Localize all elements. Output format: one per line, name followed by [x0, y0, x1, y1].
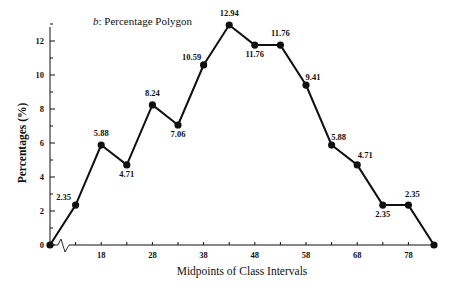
data-point-marker	[174, 121, 181, 128]
y-tick-label: 6	[40, 138, 44, 148]
data-point-label: 2.35	[405, 189, 420, 199]
data-point-marker	[251, 41, 258, 48]
axes: 02468101218283848586878	[36, 24, 435, 260]
data-point-marker	[328, 141, 335, 148]
x-tick-label: 78	[404, 250, 413, 260]
x-tick-label: 38	[199, 250, 208, 260]
data-point-label: 10.59	[182, 52, 201, 62]
data-point-marker	[72, 201, 79, 208]
data-point-label: 4.71	[358, 150, 373, 160]
chart-title: b: Percentage Polygon	[93, 15, 192, 27]
data-point-label: 8.24	[145, 88, 161, 98]
y-tick-label: 2	[40, 206, 44, 216]
data-point-marker	[98, 141, 105, 148]
data-point-marker	[277, 41, 284, 48]
y-tick-label: 12	[36, 36, 45, 46]
x-tick-label: 18	[97, 250, 106, 260]
data-point-marker	[405, 201, 412, 208]
data-point-marker	[354, 161, 361, 168]
data-point-label: 4.71	[119, 169, 134, 179]
data-point-label: 7.06	[171, 129, 186, 139]
data-point-marker	[226, 21, 233, 28]
data-point-label: 2.35	[375, 209, 390, 219]
x-tick-label: 68	[353, 250, 362, 260]
x-axis-title: Midpoints of Class Intervals	[177, 265, 308, 278]
y-tick-label: 10	[36, 70, 45, 80]
y-tick-label: 0	[40, 240, 44, 250]
data-point-label: 12.94	[220, 8, 240, 18]
data-point-label: 11.76	[245, 49, 264, 59]
y-tick-label: 4	[40, 172, 45, 182]
data-point-label: 5.88	[331, 132, 346, 142]
data-point-label: 2.35	[56, 192, 71, 202]
data-point-label: 11.76	[271, 28, 290, 38]
data-point-marker	[379, 201, 386, 208]
data-point-marker	[302, 81, 309, 88]
data-point-marker	[149, 101, 156, 108]
data-point-marker	[200, 61, 207, 68]
x-tick-label: 48	[251, 250, 260, 260]
data-point-marker	[46, 241, 53, 248]
chart-title-text: : Percentage Polygon	[99, 15, 193, 27]
x-tick-label: 28	[148, 250, 157, 260]
y-tick-label: 8	[40, 104, 44, 114]
data-point-marker	[123, 161, 130, 168]
chart-canvas: 02468101218283848586878 2.355.884.718.24…	[0, 0, 457, 288]
y-axis-title: Percentages (%)	[16, 103, 29, 184]
data-point-label: 5.88	[94, 128, 109, 138]
data-point-marker	[430, 241, 437, 248]
percentage-polygon-chart: 02468101218283848586878 2.355.884.718.24…	[0, 0, 457, 288]
data-labels: 2.355.884.718.247.0610.5912.9411.7611.76…	[56, 8, 420, 219]
data-point-label: 9.41	[306, 72, 321, 82]
x-tick-label: 58	[302, 250, 311, 260]
